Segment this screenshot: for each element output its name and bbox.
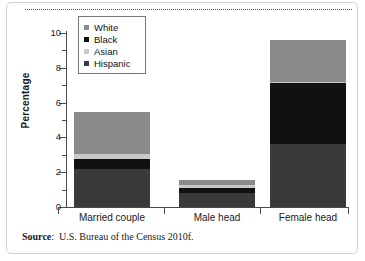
x-tick: [58, 208, 59, 214]
x-category-label: Married couple: [62, 212, 162, 223]
bar-segment-asian[interactable]: [74, 154, 150, 159]
bar-segment-black[interactable]: [270, 83, 346, 144]
y-tick-minor: [62, 190, 67, 191]
bar-segment-hispanic[interactable]: [179, 193, 255, 207]
bar-stack[interactable]: [74, 112, 150, 207]
bar-segment-white[interactable]: [74, 112, 150, 154]
bar-segment-white[interactable]: [270, 40, 346, 82]
bar-segment-asian[interactable]: [179, 185, 255, 188]
legend-swatch-icon: [84, 37, 89, 42]
legend-item[interactable]: Black: [84, 33, 140, 45]
x-axis-line: [58, 207, 349, 208]
bar-stack[interactable]: [270, 40, 346, 207]
y-tick-minor: [62, 50, 67, 51]
source-caption: Source: U.S. Bureau of the Census 2010f.: [22, 231, 193, 242]
chart-plot-area: Percentage 0246810 Married coupleMale he…: [0, 0, 365, 261]
legend-swatch-icon: [84, 61, 89, 66]
source-label: Source: [22, 231, 51, 242]
y-tick-minor: [62, 155, 67, 156]
chart-legend: WhiteBlackAsianHispanic: [78, 16, 146, 74]
bar-segment-black[interactable]: [179, 188, 255, 193]
legend-item-label: Black: [94, 34, 117, 45]
x-category-label: Female head: [258, 212, 358, 223]
y-tick-minor: [62, 85, 67, 86]
bar-segment-black[interactable]: [74, 159, 150, 169]
bar-segment-asian[interactable]: [270, 82, 346, 84]
source-separator: :: [51, 231, 54, 242]
y-tick-label: 2: [21, 167, 61, 177]
legend-item[interactable]: White: [84, 21, 140, 33]
y-tick-label: 10: [21, 28, 61, 38]
x-tick: [164, 208, 165, 214]
legend-item-label: White: [94, 22, 118, 33]
y-tick-minor: [62, 120, 67, 121]
x-category-label: Male head: [167, 212, 267, 223]
y-tick-label: 6: [21, 98, 61, 108]
source-text: U.S. Bureau of the Census 2010f.: [59, 231, 193, 242]
legend-item-label: Asian: [94, 46, 118, 57]
legend-item-label: Hispanic: [94, 58, 130, 69]
legend-item[interactable]: Asian: [84, 45, 140, 57]
bar-segment-hispanic[interactable]: [74, 169, 150, 207]
y-tick-label: 0: [21, 202, 61, 212]
y-tick-label: 8: [21, 63, 61, 73]
bar-stack[interactable]: [179, 180, 255, 207]
y-tick-label: 4: [21, 132, 61, 142]
legend-swatch-icon: [84, 49, 89, 54]
bar-segment-hispanic[interactable]: [270, 144, 346, 207]
legend-swatch-icon: [84, 25, 89, 30]
legend-item[interactable]: Hispanic: [84, 57, 140, 69]
bar-segment-white[interactable]: [179, 180, 255, 185]
